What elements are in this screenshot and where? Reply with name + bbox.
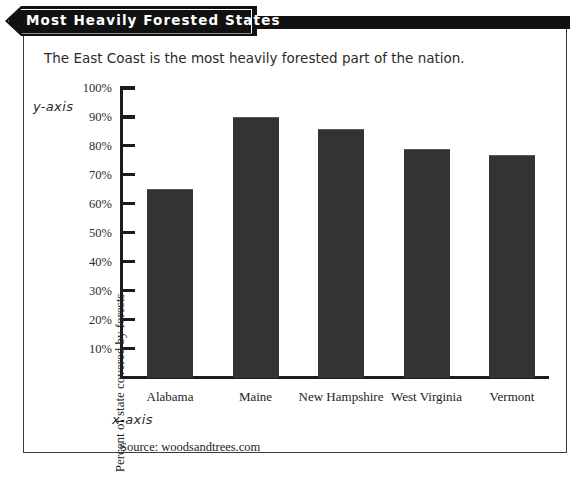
- bar-chart: 10%20%30%40%50%60%70%80%90%100% AlabamaM…: [0, 0, 582, 478]
- title-banner: Most Heavily Forested States: [0, 6, 582, 36]
- x-axis-label: Alabama: [123, 388, 217, 405]
- y-axis-tick: [120, 173, 135, 176]
- y-axis-tick-label: 100%: [62, 81, 112, 96]
- y-axis-tick: [120, 86, 135, 89]
- y-axis-tick: [120, 115, 135, 118]
- page-title: Most Heavily Forested States: [26, 12, 281, 28]
- bar: [489, 155, 535, 379]
- bar: [404, 149, 450, 379]
- x-axis-label: Maine: [209, 388, 303, 405]
- y-axis-tick: [120, 231, 135, 234]
- source-note: Source: woodsandtrees.com: [120, 440, 260, 455]
- y-axis-tick-label-holder: 100%: [62, 81, 112, 95]
- x-axis-label: West Virginia: [380, 388, 474, 405]
- x-axis-label: New Hampshire: [294, 388, 388, 405]
- bar: [147, 189, 193, 378]
- y-axis-tick: [120, 202, 135, 205]
- y-axis-annotation: y-axis: [33, 99, 73, 114]
- y-axis-tick: [120, 260, 135, 263]
- y-axis-tick: [120, 144, 135, 147]
- x-axis-label: Vermont: [465, 388, 559, 405]
- bar: [318, 129, 364, 379]
- bar: [233, 117, 279, 379]
- x-axis-annotation: x-axis: [112, 412, 153, 427]
